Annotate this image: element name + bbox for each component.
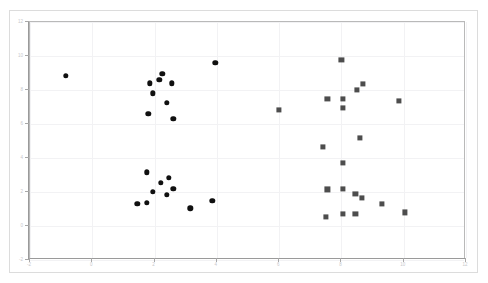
gridline-horizontal <box>30 158 464 159</box>
y-tick <box>25 89 29 90</box>
data-point-circle <box>160 71 165 76</box>
data-point-circle <box>188 205 193 210</box>
gridline-vertical <box>217 22 218 258</box>
gridline-horizontal <box>30 226 464 227</box>
chart-title <box>0 0 488 7</box>
y-tick <box>25 259 29 260</box>
data-point-square <box>361 81 366 86</box>
data-point-circle <box>164 192 169 197</box>
data-point-square <box>359 195 364 200</box>
data-point-square <box>277 107 282 112</box>
gridline-vertical <box>155 22 156 258</box>
data-point-circle <box>135 201 140 206</box>
y-tick-label: 0 <box>20 223 23 228</box>
y-tick-label: 6 <box>20 121 23 126</box>
y-tick <box>25 225 29 226</box>
data-point-square <box>340 186 345 191</box>
data-point-square <box>353 212 358 217</box>
data-point-square <box>340 105 345 110</box>
x-tick-label: 2 <box>152 262 155 267</box>
x-tick-label: 6 <box>277 262 280 267</box>
gridline-horizontal <box>30 260 464 261</box>
y-axis-spine <box>28 21 29 259</box>
data-point-square <box>325 96 330 101</box>
gridline-horizontal <box>30 124 464 125</box>
data-point-square <box>340 96 345 101</box>
y-tick <box>25 55 29 56</box>
scatter-plot-figure: -2024681012 -2024681012 <box>0 0 488 283</box>
y-tick <box>25 157 29 158</box>
y-tick-label: 2 <box>20 189 23 194</box>
gridline-horizontal <box>30 56 464 57</box>
x-tick-label: -2 <box>27 262 31 267</box>
y-tick-label: 8 <box>20 87 23 92</box>
data-point-square <box>379 201 384 206</box>
data-point-circle <box>144 170 149 175</box>
data-point-square <box>403 210 408 215</box>
plot-area <box>29 21 465 259</box>
data-point-square <box>320 144 325 149</box>
data-point-circle <box>166 175 171 180</box>
data-point-square <box>325 187 330 192</box>
y-tick-label: 12 <box>18 19 23 24</box>
gridline-vertical <box>279 22 280 258</box>
data-point-circle <box>144 200 149 205</box>
gridline-vertical <box>30 22 31 258</box>
x-tick-label: 0 <box>90 262 93 267</box>
data-point-circle <box>147 80 152 85</box>
data-point-square <box>353 191 358 196</box>
data-point-square <box>340 212 345 217</box>
x-tick-label: 8 <box>339 262 342 267</box>
data-point-circle <box>171 116 176 121</box>
gridline-vertical <box>404 22 405 258</box>
data-point-circle <box>157 77 162 82</box>
data-point-square <box>396 98 401 103</box>
data-point-circle <box>171 186 176 191</box>
y-tick-label: 4 <box>20 155 23 160</box>
data-point-circle <box>164 100 169 105</box>
gridline-vertical <box>92 22 93 258</box>
data-point-circle <box>209 198 214 203</box>
y-tick-label: -2 <box>19 257 23 262</box>
y-tick <box>25 123 29 124</box>
y-tick <box>25 191 29 192</box>
data-point-circle <box>63 73 68 78</box>
x-axis-spine <box>29 258 465 259</box>
data-point-square <box>358 135 363 140</box>
data-point-square <box>340 161 345 166</box>
y-tick <box>25 21 29 22</box>
x-tick-label: 4 <box>215 262 218 267</box>
gridline-horizontal <box>30 22 464 23</box>
data-point-circle <box>169 80 174 85</box>
gridline-horizontal <box>30 90 464 91</box>
gridline-vertical <box>466 22 467 258</box>
gridline-horizontal <box>30 192 464 193</box>
x-tick-label: 10 <box>400 262 405 267</box>
y-tick-label: 10 <box>18 53 23 58</box>
x-tick-label: 12 <box>462 262 467 267</box>
data-point-circle <box>158 180 163 185</box>
data-point-square <box>339 58 344 63</box>
data-point-square <box>323 214 328 219</box>
data-point-circle <box>146 111 151 116</box>
data-point-square <box>354 87 359 92</box>
